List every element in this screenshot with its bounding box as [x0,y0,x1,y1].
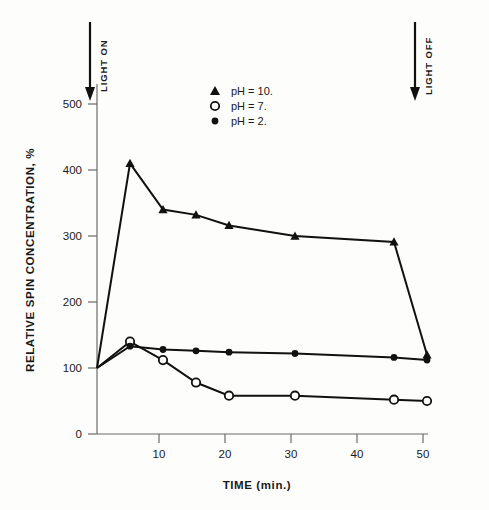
series-line [97,163,427,368]
y-tick-label-0: 0 [76,428,82,440]
spin-concentration-chart: LIGHT ON LIGHT OFF 500 400 [0,0,489,510]
axes: 500 400 300 200 100 0 10 20 30 40 50 REL… [24,84,429,491]
light-on-arrow-head [85,87,95,101]
data-point [423,397,431,405]
light-off-annotation: LIGHT OFF [410,22,434,101]
data-point [292,350,299,357]
legend-marker-open-circle [211,102,219,110]
x-tick-label-40: 40 [351,448,364,460]
series-layer [92,159,431,405]
legend-label-ph10: pH = 10. [231,85,273,97]
data-point [160,346,167,353]
data-point [390,395,398,403]
light-off-arrow-head [410,87,420,101]
series-line [97,342,427,401]
data-point [225,392,233,400]
series-line [97,346,427,368]
x-axis-ticks [159,434,423,443]
series-ph-10 [92,159,431,372]
data-point [127,343,134,350]
legend-label-ph7: pH = 7. [231,100,267,112]
x-tick-label-20: 20 [219,448,232,460]
figure-container: LIGHT ON LIGHT OFF 500 400 [0,0,489,510]
y-tick-label-100: 100 [63,362,82,374]
data-point [193,347,200,354]
light-on-label: LIGHT ON [98,39,109,92]
x-axis-title: TIME (min.) [223,479,292,491]
data-point [291,392,299,400]
y-tick-label-400: 400 [63,164,82,176]
data-point [424,357,431,364]
legend-label-ph2: pH = 2. [231,115,267,127]
y-tick-label-300: 300 [63,230,82,242]
data-point [159,356,167,364]
data-point [192,378,200,386]
light-off-label: LIGHT OFF [423,37,434,95]
series-ph-2 [94,343,431,372]
x-tick-label-50: 50 [417,448,430,460]
y-tick-label-500: 500 [63,98,82,110]
data-point [226,349,233,356]
legend-marker-filled-circle [212,118,219,125]
legend-marker-filled-triangle [210,86,220,95]
data-point [125,159,134,167]
y-axis-ticks [88,104,97,434]
x-tick-label-30: 30 [285,448,298,460]
x-tick-label-10: 10 [153,448,166,460]
data-point [391,354,398,361]
y-tick-label-200: 200 [63,296,82,308]
legend: pH = 10. pH = 7. pH = 2. [210,85,273,127]
y-axis-title: RELATIVE SPIN CONCENTRATION, % [24,148,36,372]
